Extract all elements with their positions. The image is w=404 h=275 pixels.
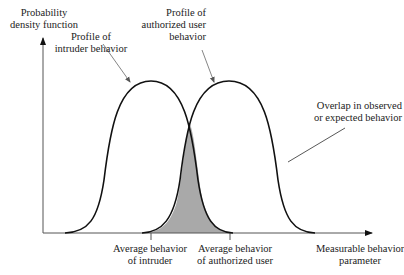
overlap-label-line2: or expected behavior xyxy=(300,112,402,124)
overlap-label-line1: Overlap in observed xyxy=(300,100,402,112)
authorized-mean-label-line2: of authorized user xyxy=(194,255,276,267)
authorized-profile-label-line3: behavior xyxy=(140,31,206,43)
intruder-profile-label: Profile of intruder behavior xyxy=(52,31,130,55)
intruder-curve xyxy=(65,81,233,233)
y-axis-label-line2: density function xyxy=(0,19,88,31)
authorized-profile-label: Profile of authorized user behavior xyxy=(140,7,206,43)
intruder-mean-label-line2: of intruder xyxy=(103,255,197,267)
authorized-profile-label-line2: authorized user xyxy=(140,19,206,31)
authorized-profile-label-line1: Profile of xyxy=(140,7,206,19)
y-axis-label-line1: Probability xyxy=(0,7,88,19)
x-axis-label-line1: Measurable behavior xyxy=(316,243,404,255)
authorized-mean-label-line1: Average behavior xyxy=(194,243,276,255)
overlap-label: Overlap in observed or expected behavior xyxy=(300,100,402,124)
intruder-mean-label: Average behavior of intruder xyxy=(103,243,197,267)
overlap-leader xyxy=(288,128,345,162)
x-axis-label: Measurable behavior parameter xyxy=(316,243,404,267)
authorized-leader xyxy=(202,50,214,82)
y-axis-label: Probability density function xyxy=(0,7,88,31)
intruder-mean-label-line1: Average behavior xyxy=(103,243,197,255)
overlap-shaded-region xyxy=(142,124,233,233)
authorized-user-curve xyxy=(142,81,315,233)
authorized-mean-label: Average behavior of authorized user xyxy=(194,243,276,267)
x-axis-label-line2: parameter xyxy=(316,255,404,267)
intruder-profile-label-line2: intruder behavior xyxy=(52,43,130,55)
intruder-profile-label-line1: Profile of xyxy=(52,31,130,43)
